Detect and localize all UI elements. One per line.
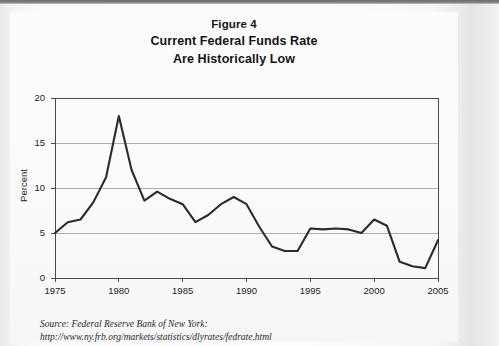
source-line-2: http://www.ny.frb.org/markets/statistics… xyxy=(40,331,440,344)
x-axis-tick-label: 2000 xyxy=(351,285,397,296)
source-note: Source: Federal Reserve Bank of New York… xyxy=(40,318,440,344)
x-axis-tick-label: 1975 xyxy=(32,285,78,296)
page-background: Figure 4 Current Federal Funds Rate Are … xyxy=(0,4,499,346)
chart-plot-area: Percent 05101520197519801985199019952000… xyxy=(10,12,458,342)
figure-sheet: Figure 4 Current Federal Funds Rate Are … xyxy=(10,12,458,342)
y-axis-tick-label: 0 xyxy=(19,272,45,283)
y-axis-tick-label: 10 xyxy=(19,182,45,193)
x-axis-tick-label: 1985 xyxy=(160,285,206,296)
x-axis-tick-label: 1980 xyxy=(96,285,142,296)
x-axis-tick-label: 1990 xyxy=(224,285,270,296)
data-series-line xyxy=(55,116,438,268)
x-axis-tick-label: 1995 xyxy=(287,285,333,296)
y-axis-tick-label: 20 xyxy=(19,92,45,103)
y-axis-tick-label: 15 xyxy=(19,137,45,148)
x-axis-tick-label: 2005 xyxy=(415,285,461,296)
source-line-1: Source: Federal Reserve Bank of New York… xyxy=(40,318,440,331)
y-axis-tick-label: 5 xyxy=(19,227,45,238)
